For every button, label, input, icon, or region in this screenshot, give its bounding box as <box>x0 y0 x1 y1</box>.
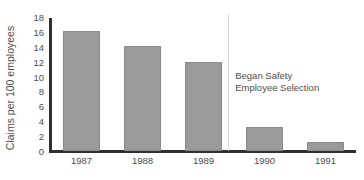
y-axis-tick-label: 14 <box>26 43 44 53</box>
y-axis-tick-label: 10 <box>26 73 44 83</box>
bar <box>307 142 344 151</box>
bar-chart: Claims per 100 employees 024681012141618… <box>0 0 364 180</box>
y-axis-tick-label: 0 <box>26 147 44 157</box>
bar <box>246 127 283 151</box>
x-axis-tick-label: 1988 <box>112 155 173 167</box>
annotation-line-2: Employee Selection <box>235 82 319 94</box>
y-axis-tick-label: 2 <box>26 132 44 142</box>
x-axis-tick-label: 1989 <box>173 155 234 167</box>
x-axis-tick-label: 1990 <box>234 155 295 167</box>
y-axis-title: Claims per 100 employees <box>3 8 17 168</box>
plot-area: Began Safety Employee Selection <box>51 18 356 151</box>
y-axis-tick-label: 18 <box>26 13 44 23</box>
intervention-divider-line <box>228 14 230 151</box>
y-axis-tick-labels: 024681012141618 <box>26 18 44 152</box>
y-axis-tick-label: 4 <box>26 117 44 127</box>
bar <box>124 46 161 151</box>
intervention-annotation: Began Safety Employee Selection <box>235 70 319 93</box>
bar <box>63 31 100 151</box>
y-axis-tick-label: 16 <box>26 28 44 38</box>
x-axis-tick-label: 1987 <box>51 155 112 167</box>
bar <box>185 62 222 151</box>
y-axis-tick-label: 8 <box>26 87 44 97</box>
x-axis-tick-labels: 19871988198919901991 <box>51 155 356 169</box>
y-axis-tick-label: 6 <box>26 102 44 112</box>
annotation-line-1: Began Safety <box>235 70 319 82</box>
x-axis-tick-label: 1991 <box>295 155 356 167</box>
y-axis-tick-label: 12 <box>26 58 44 68</box>
